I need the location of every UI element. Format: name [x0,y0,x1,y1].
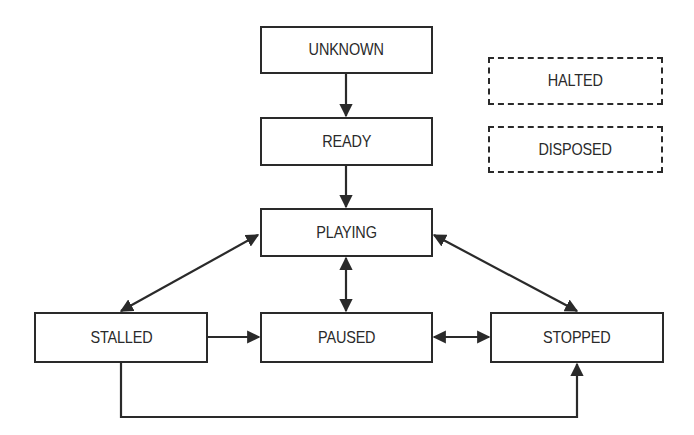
edge-playing-stalled [121,235,258,311]
state-label: READY [322,132,371,152]
state-disposed: DISPOSED [488,126,663,173]
state-paused: PAUSED [260,312,433,363]
edge-stalled-stopped [121,363,577,417]
state-label: STALLED [90,328,152,348]
state-stopped: STOPPED [490,312,664,363]
state-label: DISPOSED [539,140,612,160]
state-stalled: STALLED [34,312,208,363]
state-ready: READY [260,117,433,166]
state-label: PAUSED [318,328,375,348]
state-label: UNKNOWN [309,40,384,60]
state-label: PLAYING [316,223,376,243]
state-unknown: UNKNOWN [260,26,433,74]
state-playing: PLAYING [260,208,433,257]
state-label: HALTED [548,71,603,91]
state-halted: HALTED [488,57,663,105]
state-label: STOPPED [543,328,611,348]
edge-playing-stopped [434,235,577,311]
